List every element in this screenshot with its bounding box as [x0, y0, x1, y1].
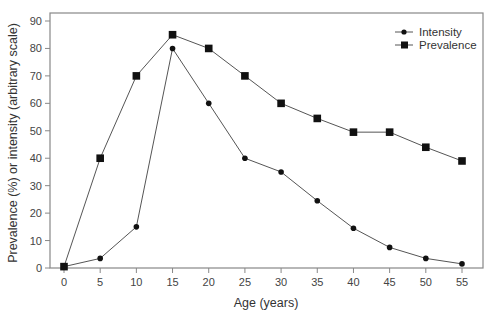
square-marker: [350, 128, 358, 136]
x-tick-label: 15: [166, 276, 178, 288]
square-marker: [458, 157, 466, 165]
circle-marker: [387, 245, 393, 251]
square-marker: [60, 263, 68, 271]
y-tick-label: 40: [30, 152, 42, 164]
legend-label: Intensity: [419, 26, 462, 38]
x-tick-label: 10: [130, 276, 142, 288]
x-tick-label: 40: [347, 276, 359, 288]
y-tick-label: 30: [30, 180, 42, 192]
circle-marker: [206, 101, 212, 107]
plot-area-border: [50, 13, 483, 268]
y-tick-label: 10: [30, 235, 42, 247]
circle-marker: [314, 198, 320, 204]
series-line: [64, 35, 462, 267]
legend-circle-marker: [401, 29, 406, 34]
square-marker: [277, 100, 285, 108]
square-marker: [386, 128, 394, 136]
y-tick-label: 80: [30, 42, 42, 54]
line-chart: 0102030405060708090 05101520253035404550…: [0, 0, 494, 324]
square-marker: [96, 154, 104, 162]
square-marker: [422, 143, 430, 151]
x-tick-label: 45: [384, 276, 396, 288]
y-axis-title: Prevalence (%) or intensity (arbitrary s…: [6, 23, 20, 263]
circle-marker: [242, 155, 248, 161]
circle-marker: [351, 225, 357, 231]
plot-frame: [50, 13, 483, 268]
y-tick-label: 0: [36, 262, 42, 274]
x-tick-label: 50: [420, 276, 432, 288]
x-tick-label: 5: [97, 276, 103, 288]
y-axis-ticks: 0102030405060708090: [30, 15, 50, 274]
circle-marker: [134, 224, 140, 230]
series-intensity: [61, 46, 465, 270]
y-tick-label: 20: [30, 207, 42, 219]
circle-marker: [97, 256, 103, 262]
circle-marker: [278, 169, 284, 175]
legend-item-prevalence: Prevalence: [395, 39, 477, 51]
x-tick-label: 20: [203, 276, 215, 288]
x-tick-label: 0: [61, 276, 67, 288]
circle-marker: [423, 256, 429, 262]
legend: IntensityPrevalence: [395, 26, 477, 51]
data-series: [60, 31, 466, 271]
x-tick-label: 25: [239, 276, 251, 288]
legend-label: Prevalence: [419, 39, 477, 51]
square-marker: [313, 115, 321, 123]
x-axis-title: Age (years): [234, 296, 299, 310]
square-marker: [169, 31, 177, 39]
x-tick-label: 35: [311, 276, 323, 288]
y-tick-label: 70: [30, 70, 42, 82]
y-tick-label: 60: [30, 97, 42, 109]
series-line: [64, 48, 462, 266]
legend-item-intensity: Intensity: [395, 26, 462, 38]
legend-square-marker: [401, 42, 408, 49]
series-prevalence: [60, 31, 466, 271]
square-marker: [205, 45, 213, 53]
circle-marker: [459, 261, 465, 267]
x-tick-label: 30: [275, 276, 287, 288]
square-marker: [133, 72, 141, 80]
circle-marker: [170, 46, 176, 52]
y-tick-label: 90: [30, 15, 42, 27]
x-tick-label: 55: [456, 276, 468, 288]
square-marker: [241, 72, 249, 80]
y-tick-label: 50: [30, 125, 42, 137]
x-axis-ticks: 0510152025303540455055: [61, 268, 468, 288]
